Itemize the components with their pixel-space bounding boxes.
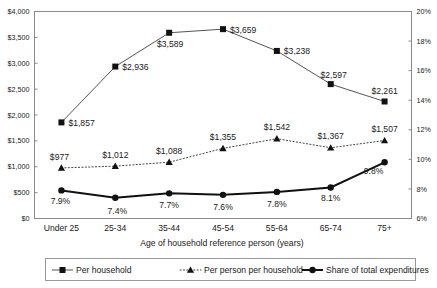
data-value-label: 7.6% — [213, 202, 233, 212]
data-value-label: 9.8% — [364, 166, 384, 176]
left-tick-label: $2,500 — [8, 85, 30, 94]
left-tick-label: $3,500 — [8, 33, 30, 42]
right-tick-label: 12% — [417, 125, 432, 134]
right-tick-label: 10% — [417, 155, 432, 164]
legend-item-label: Share of total expenditures — [326, 265, 429, 275]
marker-circle — [112, 195, 118, 201]
data-value-label: $2,261 — [371, 86, 398, 96]
marker-circle — [328, 184, 334, 190]
data-value-label: $1,507 — [371, 124, 398, 134]
data-value-label: $1,355 — [210, 132, 237, 142]
marker-square — [220, 26, 226, 32]
category-label: 65-74 — [320, 223, 342, 233]
marker-square — [382, 98, 388, 104]
data-value-label: $1,857 — [68, 118, 95, 128]
left-tick-label: $1,500 — [8, 136, 30, 145]
left-tick-label: $2,000 — [8, 111, 30, 120]
legend-item-label: Per person per household — [204, 265, 303, 275]
marker-square — [328, 81, 334, 87]
right-tick-label: 20% — [417, 7, 432, 16]
data-value-label: 7.4% — [107, 206, 127, 216]
x-axis-title: Age of household reference person (years… — [140, 238, 304, 248]
category-label: 45-54 — [212, 223, 234, 233]
right-tick-label: 16% — [417, 66, 432, 75]
chart-container: $0$500$1,000$1,500$2,000$2,500$3,000$3,5… — [0, 0, 437, 288]
chart-canvas: $0$500$1,000$1,500$2,000$2,500$3,000$3,5… — [0, 0, 437, 288]
data-value-label: 8.1% — [321, 193, 341, 203]
data-value-label: 7.9% — [51, 196, 71, 206]
data-value-label: $977 — [50, 152, 69, 162]
data-value-label: 7.8% — [267, 199, 287, 209]
category-label: 25-34 — [104, 223, 126, 233]
marker-circle — [381, 159, 387, 165]
marker-square — [112, 64, 118, 70]
data-value-label: $2,936 — [122, 62, 149, 72]
data-value-label: $1,542 — [264, 122, 291, 132]
data-value-label: 7.7% — [159, 200, 179, 210]
marker-square — [58, 119, 64, 125]
legend-items: Per householdPer person per householdSha… — [52, 265, 429, 275]
marker-circle — [309, 267, 315, 273]
marker-circle — [220, 192, 226, 198]
marker-square — [166, 30, 172, 36]
data-value-label: $3,659 — [230, 25, 257, 35]
data-value-label: $3,589 — [157, 39, 184, 49]
right-tick-label: 18% — [417, 37, 432, 46]
right-tick-label: 6% — [417, 214, 428, 223]
left-tick-label: $1,000 — [8, 162, 30, 171]
data-value-label: $2,597 — [321, 70, 348, 80]
left-tick-label: $3,000 — [8, 59, 30, 68]
data-value-label: $1,088 — [156, 146, 183, 156]
left-tick-label: $0 — [22, 214, 30, 223]
data-value-label: $1,012 — [102, 150, 129, 160]
right-tick-label: 14% — [417, 96, 432, 105]
right-tick-label: 8% — [417, 185, 428, 194]
left-tick-label: $4,000 — [8, 7, 30, 16]
data-value-label: $1,367 — [318, 131, 345, 141]
marker-circle — [166, 190, 172, 196]
category-label: Under 25 — [44, 223, 80, 233]
category-label: 55-64 — [266, 223, 288, 233]
category-label: 75+ — [377, 223, 392, 233]
marker-square — [60, 267, 66, 273]
data-value-label: $3,238 — [284, 46, 311, 56]
category-label: 35-44 — [158, 223, 180, 233]
marker-circle — [274, 189, 280, 195]
left-tick-label: $500 — [14, 188, 30, 197]
legend-item-label: Per household — [76, 265, 132, 275]
marker-circle — [58, 187, 64, 193]
marker-square — [274, 48, 280, 54]
